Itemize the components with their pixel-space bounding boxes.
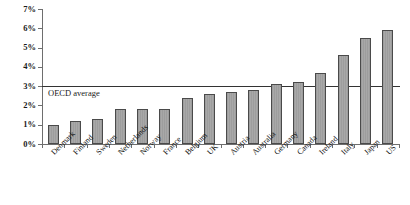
- bar: [315, 73, 326, 144]
- x-axis-tick-mark: [399, 144, 400, 148]
- x-axis-tick-label: US: [385, 144, 398, 157]
- y-axis-tick-label: 7%: [2, 5, 36, 14]
- bar: [338, 55, 349, 144]
- x-axis-tick-mark: [221, 144, 222, 148]
- y-axis-tick-label: 3%: [2, 82, 36, 91]
- x-axis-tick-mark: [42, 144, 43, 148]
- bar: [382, 30, 393, 144]
- bar: [182, 98, 193, 144]
- y-axis-tick-label: 1%: [2, 120, 36, 129]
- y-axis-tick-label: 0%: [2, 140, 36, 149]
- y-axis-tick-label: 2%: [2, 101, 36, 110]
- bar-series: [42, 0, 400, 145]
- bar: [360, 38, 371, 144]
- y-axis-tick-label: 6%: [2, 24, 36, 33]
- y-axis-tick-label: 5%: [2, 43, 36, 52]
- bar: [248, 90, 259, 144]
- bar-chart: 0%1%2%3%4%5%6%7% OECD average DenmarkFin…: [0, 0, 410, 205]
- bar: [226, 92, 237, 144]
- y-axis-tick-label: 4%: [2, 62, 36, 71]
